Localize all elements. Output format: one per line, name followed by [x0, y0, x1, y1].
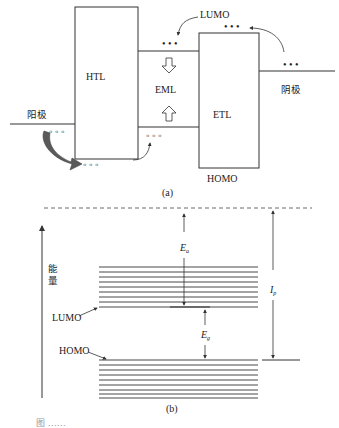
- etl-lumo-dots: • • •: [224, 21, 240, 32]
- homo-pointer-arrow: [88, 352, 106, 359]
- figure-caption: 图 ……: [36, 418, 66, 428]
- panel-a: 阳极 HTL • • • EML ◦ ◦ ◦ ETL LUMO • • • HO…: [10, 7, 335, 199]
- ea-label: Ea: [179, 242, 189, 254]
- energy-axis-label-1: 能: [48, 263, 58, 274]
- cathode-label: 阴极: [281, 84, 301, 95]
- panel-b: 能 量 LUMO: [42, 208, 312, 415]
- anode-hole-dots: ◦ ◦ ◦: [49, 126, 65, 137]
- homo-band: [99, 360, 258, 398]
- oled-energy-diagram: 阳极 HTL • • • EML ◦ ◦ ◦ ETL LUMO • • • HO…: [0, 0, 339, 428]
- htl-hole-dots: ◦ ◦ ◦: [83, 159, 99, 170]
- homo-label-b: HOMO: [59, 345, 90, 356]
- lumo-label-a: LUMO: [200, 9, 229, 20]
- ip-label: Ip: [269, 284, 276, 296]
- cathode-to-etl-arrow: [250, 28, 284, 52]
- etl-label: ETL: [213, 109, 231, 120]
- lumo-pointer-arrow: [79, 308, 97, 316]
- etl-to-eml-arrow: [178, 17, 198, 35]
- energy-axis-label-2: 量: [48, 275, 58, 286]
- htl-to-eml-arrow: [133, 143, 150, 160]
- eg-label: Eg: [200, 329, 210, 341]
- cathode-dots: • • •: [283, 59, 299, 70]
- etl-box: [199, 33, 259, 168]
- eml-label: EML: [155, 84, 176, 95]
- lumo-label-b: LUMO: [52, 312, 81, 323]
- hole-up-arrow-icon: [162, 106, 176, 121]
- panel-a-label: (a): [162, 187, 173, 199]
- anode-label: 阳极: [27, 109, 47, 120]
- eml-lumo-dots: • • •: [162, 38, 178, 49]
- panel-b-label: (b): [166, 403, 178, 415]
- eml-hole-dots: ◦ ◦ ◦: [146, 130, 162, 141]
- electron-down-arrow-icon: [162, 58, 176, 73]
- homo-label-a: HOMO: [207, 173, 238, 184]
- htl-label: HTL: [86, 71, 105, 82]
- htl-box: [75, 7, 138, 159]
- lumo-band: [99, 267, 258, 307]
